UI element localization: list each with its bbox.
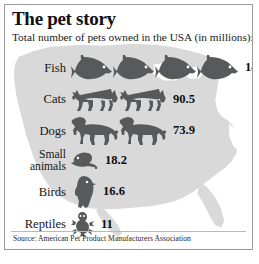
source-divider bbox=[11, 231, 246, 232]
row-label-reptiles: Reptiles bbox=[5, 218, 71, 230]
cat-icon bbox=[119, 86, 167, 112]
bird-icon bbox=[71, 175, 97, 209]
fish-icon bbox=[113, 54, 155, 81]
row-value-birds: 16.6 bbox=[97, 184, 125, 199]
row-value-dogs: 73.9 bbox=[167, 123, 195, 138]
row-value-small-animals: 18.2 bbox=[99, 153, 127, 168]
dog-icon bbox=[71, 116, 119, 145]
chart-row-small-animals: Small animals 18.2 bbox=[5, 147, 252, 174]
chart-row-dogs: Dogs 73.9 bbox=[5, 114, 252, 147]
row-label-dogs: Dogs bbox=[5, 125, 71, 137]
dog-icon bbox=[119, 116, 167, 145]
pictogram-group-birds bbox=[71, 174, 97, 209]
row-label-small-animals: Small animals bbox=[5, 149, 71, 172]
hamster-icon bbox=[71, 151, 99, 171]
pictogram-group-small-animals bbox=[71, 147, 99, 174]
infographic-panel: The pet story Total number of pets owned… bbox=[4, 4, 253, 250]
cat-icon bbox=[71, 86, 119, 112]
row-label-fish: Fish bbox=[5, 62, 71, 74]
chart-title: The pet story bbox=[12, 8, 246, 30]
row-value-fish: 148.6 bbox=[239, 60, 253, 75]
row-label-cats: Cats bbox=[5, 93, 71, 105]
chart-rows: Fish bbox=[5, 51, 252, 239]
row-value-cats: 90.5 bbox=[167, 92, 195, 107]
fish-icon bbox=[71, 54, 113, 81]
row-value-reptiles: 11 bbox=[95, 217, 113, 232]
fish-icon bbox=[197, 54, 239, 81]
row-label-small-animals-line1: Small bbox=[5, 149, 66, 161]
chart-row-birds: Birds 16.6 bbox=[5, 174, 252, 209]
row-label-birds: Birds bbox=[5, 186, 71, 198]
fish-icon bbox=[155, 54, 197, 81]
chart-row-fish: Fish bbox=[5, 51, 252, 84]
row-label-small-animals-line2: animals bbox=[5, 161, 66, 173]
pictogram-group-fish bbox=[71, 51, 239, 84]
pictogram-group-dogs bbox=[71, 114, 167, 147]
chart-row-cats: Cats 90.5 bbox=[5, 84, 252, 114]
source-credit: Source: American Pet Product Manufacture… bbox=[13, 234, 191, 243]
pictogram-group-cats bbox=[71, 84, 167, 114]
chart-header: The pet story Total number of pets owned… bbox=[12, 8, 246, 44]
chart-subtitle: Total number of pets owned in the USA (i… bbox=[12, 30, 246, 44]
